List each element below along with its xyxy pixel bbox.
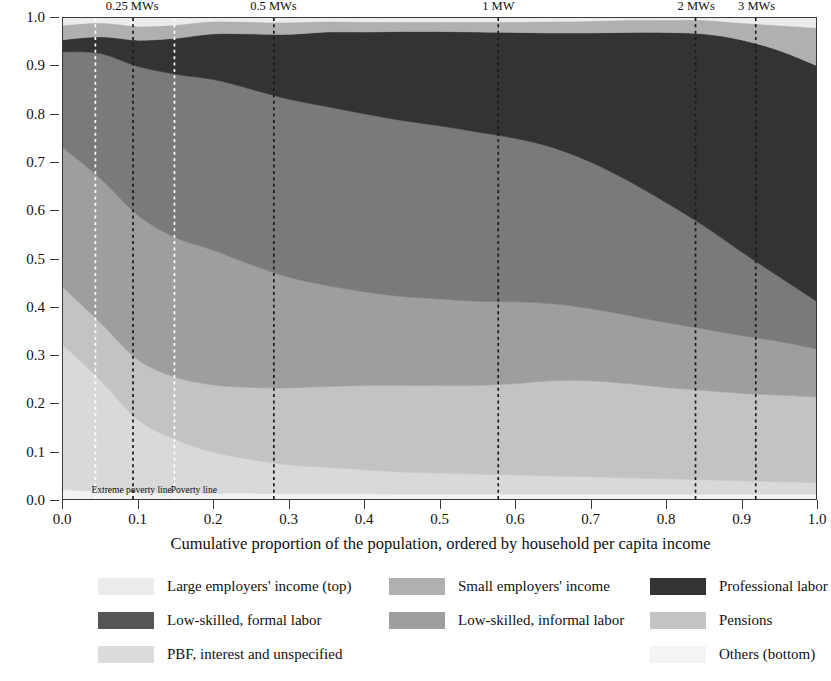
x-tick-mark [817,500,818,509]
x-tick-label: 0.3 [279,512,298,527]
legend-label: Small employers' income [458,579,610,594]
y-tick-label: 0.8 [26,106,45,121]
legend-label: PBF, interest and unspecified [167,647,342,662]
legend-label: Low-skilled, formal labor [167,613,322,628]
y-tick-mark [50,307,59,308]
x-tick-mark [62,500,63,509]
y-tick-mark [50,452,59,453]
x-axis-title: Cumulative proportion of the population,… [62,534,819,554]
y-tick-mark [50,162,59,163]
x-tick-label: 0.1 [128,512,147,527]
legend-swatch [98,612,154,629]
y-tick-label: 0.2 [26,396,45,411]
y-tick-mark [50,355,59,356]
chart-legend: Large employers' income (top)Small emplo… [0,575,831,681]
y-tick-label: 1.0 [26,10,45,25]
legend-swatch [98,646,154,663]
legend-swatch [389,612,445,629]
y-tick-mark [50,65,59,66]
legend-row: Large employers' income (top)Small emplo… [0,575,831,601]
legend-swatch [650,578,706,595]
x-tick-label: 0.8 [657,512,676,527]
y-tick-mark [50,114,59,115]
x-tick-label: 0.4 [355,512,374,527]
x-tick-mark [440,500,441,509]
y-tick-mark [50,17,59,18]
plot-area: Extreme poverty linePoverty line [62,17,817,500]
top-annotation-mw2: 2 MWs [678,0,715,13]
x-tick-label: 0.9 [732,512,751,527]
y-tick-mark [50,259,59,260]
legend-label: Low-skilled, informal labor [458,613,624,628]
top-annotation-mw025: 0.25 MWs [106,0,159,13]
x-tick-mark [364,500,365,509]
legend-label: Pensions [719,613,772,628]
x-tick-label: 0.7 [581,512,600,527]
poverty-label-extreme_poverty: Extreme poverty line [91,486,171,496]
legend-swatch [389,578,445,595]
top-annotation-mw3: 3 MWs [738,0,775,13]
x-tick-label: 0.2 [204,512,223,527]
y-tick-label: 0.5 [26,251,45,266]
x-tick-label: 0.5 [430,512,449,527]
legend-label: Professional labor [719,579,828,594]
y-tick-mark [50,500,59,501]
x-tick-mark [591,500,592,509]
top-annotation-mw05: 0.5 MWs [250,0,297,13]
poverty-label-poverty: Poverty line [171,486,217,496]
x-tick-mark [213,500,214,509]
legend-swatch [98,578,154,595]
x-tick-label: 0.6 [506,512,525,527]
x-tick-mark [666,500,667,509]
y-tick-label: 0.7 [26,154,45,169]
x-tick-label: 1.0 [808,512,827,527]
y-tick-mark [50,403,59,404]
legend-swatch [650,646,706,663]
top-annotation-mw1: 1 MW [482,0,514,13]
stacked-area-svg [63,18,816,499]
legend-row: Low-skilled, formal laborLow-skilled, in… [0,609,831,635]
y-tick-label: 0.3 [26,348,45,363]
legend-label: Large employers' income (top) [167,579,351,594]
legend-label: Others (bottom) [719,647,815,662]
y-tick-label: 0.9 [26,58,45,73]
x-tick-label: 0.0 [53,512,72,527]
y-tick-label: 0.4 [26,299,45,314]
x-tick-mark [289,500,290,509]
y-tick-mark [50,210,59,211]
legend-row: PBF, interest and unspecifiedOthers (bot… [0,643,831,669]
y-tick-label: 0.6 [26,203,45,218]
y-axis: 0.00.10.20.30.40.50.60.70.80.91.0 [0,0,62,505]
x-tick-mark [742,500,743,509]
stacked-area-chart-figure: 0.25 MWs0.5 MWs1 MW2 MWs3 MWs 0.00.10.20… [0,0,831,681]
x-tick-mark [138,500,139,509]
legend-swatch [650,612,706,629]
y-tick-label: 0.1 [26,444,45,459]
top-annotation-labels: 0.25 MWs0.5 MWs1 MW2 MWs3 MWs [62,0,819,17]
x-tick-mark [515,500,516,509]
y-tick-label: 0.0 [26,493,45,508]
